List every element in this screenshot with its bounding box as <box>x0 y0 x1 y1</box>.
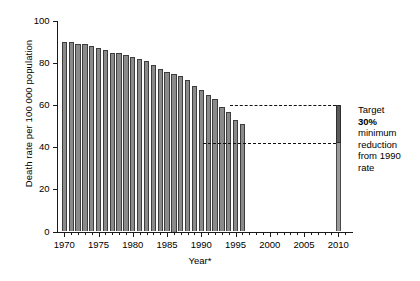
x-minor-tick-1971 <box>71 233 72 236</box>
y-tick-80 <box>53 63 57 64</box>
data-bar <box>178 76 183 232</box>
x-minor-tick-1979 <box>126 233 127 236</box>
x-minor-tick-1991 <box>208 233 209 236</box>
y-axis-line <box>57 21 58 232</box>
y-tick-100 <box>53 21 57 22</box>
data-bar <box>75 44 80 231</box>
x-minor-tick-2008 <box>325 233 326 236</box>
data-bar <box>171 74 176 232</box>
x-minor-tick-1994 <box>229 233 230 236</box>
annotation-line-1: Target <box>358 104 420 116</box>
data-bar <box>62 42 67 231</box>
x-minor-tick-1989 <box>194 233 195 236</box>
x-minor-tick-2002 <box>284 233 285 236</box>
x-minor-tick-2009 <box>331 233 332 236</box>
target-bar-reduction-band <box>336 105 341 143</box>
data-bar <box>130 57 135 232</box>
data-bar <box>137 59 142 232</box>
y-tick-0 <box>53 232 57 233</box>
x-minor-tick-2007 <box>318 233 319 236</box>
x-tick-1970 <box>64 233 65 238</box>
data-bar <box>116 53 121 232</box>
x-minor-tick-2006 <box>311 233 312 236</box>
x-minor-tick-1978 <box>119 233 120 236</box>
x-minor-tick-1986 <box>174 233 175 236</box>
x-minor-tick-1982 <box>147 233 148 236</box>
annotation-line-4: reduction <box>358 139 420 151</box>
data-bar <box>144 61 149 232</box>
data-bar <box>185 80 190 232</box>
x-tick-label-2010: 2010 <box>318 240 358 250</box>
x-tick-2005 <box>304 233 305 238</box>
data-bar <box>219 107 224 231</box>
reference-line-target-reduced-rate <box>203 143 336 144</box>
x-minor-tick-1972 <box>78 233 79 236</box>
data-bar <box>123 55 128 232</box>
data-bar <box>82 44 87 231</box>
x-minor-tick-1999 <box>263 233 264 236</box>
data-bar <box>164 72 169 232</box>
y-tick-label-40: 40 <box>22 142 50 152</box>
reference-line-baseline-1990-rate <box>230 105 336 106</box>
x-minor-tick-1981 <box>140 233 141 236</box>
y-tick-label-100: 100 <box>22 16 50 26</box>
x-minor-tick-2001 <box>277 233 278 236</box>
x-minor-tick-2003 <box>290 233 291 236</box>
data-bar <box>199 90 204 231</box>
x-minor-tick-1997 <box>249 233 250 236</box>
y-tick-label-80: 80 <box>22 58 50 68</box>
x-minor-tick-1976 <box>105 233 106 236</box>
data-bar <box>192 86 197 231</box>
data-bar <box>206 95 211 232</box>
annotation-line-6: rate <box>358 162 420 174</box>
x-minor-tick-1996 <box>242 233 243 236</box>
chart-figure: Death rate per 100 000 population Year* … <box>0 0 420 281</box>
data-bar <box>110 53 115 232</box>
target-bar-stem <box>336 143 341 231</box>
data-bar <box>69 42 74 231</box>
target-annotation: Target 30% minimum reduction from 1990 r… <box>358 104 420 174</box>
x-tick-2000 <box>270 233 271 238</box>
x-tick-1980 <box>133 233 134 238</box>
data-bar <box>240 124 245 231</box>
x-minor-tick-1998 <box>256 233 257 236</box>
x-minor-tick-1988 <box>188 233 189 236</box>
annotation-line-5: from 1990 <box>358 150 420 162</box>
x-tick-1990 <box>201 233 202 238</box>
x-axis-label: Year* <box>55 255 345 266</box>
data-bar <box>212 99 217 232</box>
y-tick-40 <box>53 147 57 148</box>
x-minor-tick-1987 <box>181 233 182 236</box>
x-minor-tick-1973 <box>85 233 86 236</box>
data-bar <box>151 65 156 231</box>
x-minor-tick-1992 <box>215 233 216 236</box>
data-bar <box>96 48 101 231</box>
data-bar <box>233 120 238 232</box>
data-bar <box>226 112 231 232</box>
x-minor-tick-1984 <box>160 233 161 236</box>
y-tick-20 <box>53 189 57 190</box>
y-tick-label-20: 20 <box>22 184 50 194</box>
x-minor-tick-1977 <box>112 233 113 236</box>
x-tick-1985 <box>167 233 168 238</box>
y-tick-label-0: 0 <box>22 227 50 237</box>
x-minor-tick-1983 <box>153 233 154 236</box>
data-bar <box>89 46 94 231</box>
x-tick-1995 <box>236 233 237 238</box>
y-tick-60 <box>53 105 57 106</box>
x-minor-tick-2011 <box>345 233 346 236</box>
x-tick-2010 <box>338 233 339 238</box>
x-tick-1975 <box>99 233 100 238</box>
annotation-line-2: 30% <box>358 116 420 128</box>
y-tick-label-60: 60 <box>22 100 50 110</box>
x-axis-line <box>57 232 353 233</box>
x-minor-tick-2004 <box>297 233 298 236</box>
annotation-line-3: minimum <box>358 127 420 139</box>
x-minor-tick-1974 <box>92 233 93 236</box>
data-bar <box>158 69 163 231</box>
data-bar <box>103 50 108 231</box>
x-minor-tick-1993 <box>222 233 223 236</box>
